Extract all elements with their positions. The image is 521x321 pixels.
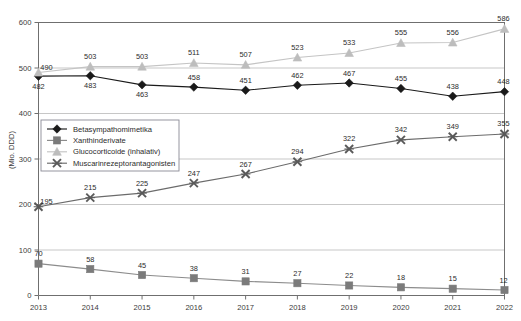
- data-label-3-1: 215: [84, 183, 96, 192]
- data-label-2-8: 556: [447, 28, 459, 37]
- y-tick-label-600: 600: [19, 18, 32, 27]
- data-label-1-5: 27: [293, 269, 301, 278]
- marker-square: [53, 137, 60, 144]
- marker-square: [190, 275, 197, 282]
- legend-label-1: Xanthinderivate: [73, 136, 126, 145]
- marker-square: [449, 285, 456, 292]
- marker-square: [397, 284, 404, 291]
- legend-label-0: Betasympathomimetika: [73, 125, 153, 134]
- data-label-0-8: 438: [447, 82, 459, 91]
- data-label-0-5: 462: [291, 71, 303, 80]
- x-tick-label-2018: 2018: [289, 303, 306, 312]
- y-tick-label-500: 500: [19, 64, 32, 73]
- y-tick-label-200: 200: [19, 200, 32, 209]
- x-tick-label-2017: 2017: [237, 303, 254, 312]
- marker-square: [35, 260, 42, 267]
- data-label-3-2: 225: [136, 179, 148, 188]
- x-tick-label-2021: 2021: [444, 303, 461, 312]
- data-label-3-3: 247: [188, 169, 200, 178]
- legend-item-1[interactable]: Xanthinderivate: [47, 136, 126, 145]
- data-label-3-5: 294: [291, 147, 303, 156]
- data-label-0-4: 451: [239, 76, 251, 85]
- y-tick-label-400: 400: [19, 109, 32, 118]
- data-label-1-0: 70: [34, 249, 42, 258]
- data-label-0-7: 455: [395, 74, 407, 83]
- marker-square: [138, 271, 145, 278]
- chart-canvas: 0100200300400500600 20132014201520162017…: [0, 0, 521, 321]
- line-chart: 0100200300400500600 20132014201520162017…: [0, 0, 521, 321]
- x-tick-label-2014: 2014: [82, 303, 99, 312]
- legend-label-2: Glucocorticoide (inhalativ): [73, 147, 161, 156]
- data-label-2-1: 503: [84, 52, 96, 61]
- data-label-0-9: 448: [497, 77, 509, 86]
- data-label-2-5: 523: [291, 43, 303, 52]
- data-label-2-2: 503: [136, 52, 148, 61]
- data-label-2-0: 490: [40, 63, 52, 72]
- x-tick-label-2020: 2020: [392, 303, 409, 312]
- marker-square: [501, 286, 508, 293]
- data-label-3-0: 195: [40, 197, 52, 206]
- marker-square: [87, 266, 94, 273]
- data-label-0-0: 482: [32, 82, 44, 91]
- marker-square: [346, 282, 353, 289]
- data-label-3-8: 349: [447, 122, 459, 131]
- data-label-3-9: 355: [497, 119, 509, 128]
- data-label-0-3: 458: [188, 73, 200, 82]
- data-label-1-4: 31: [241, 267, 249, 276]
- marker-square: [242, 278, 249, 285]
- data-label-2-6: 533: [343, 38, 355, 47]
- data-label-3-6: 322: [343, 134, 355, 143]
- y-axis-title: (Mio. DDD): [7, 131, 16, 169]
- data-label-1-6: 22: [345, 271, 353, 280]
- data-label-2-7: 555: [395, 28, 407, 37]
- x-tick-label-2019: 2019: [341, 303, 358, 312]
- data-label-0-6: 467: [343, 69, 355, 78]
- y-tick-label-300: 300: [19, 155, 32, 164]
- x-tick-label-2013: 2013: [30, 303, 47, 312]
- data-label-1-9: 12: [499, 276, 507, 285]
- legend-label-3: Muscarinrezeptorantagonisten: [73, 159, 175, 168]
- data-label-0-2: 463: [136, 90, 148, 99]
- marker-square: [294, 280, 301, 287]
- data-label-0-1: 483: [84, 81, 96, 90]
- data-label-1-1: 58: [86, 255, 94, 264]
- data-label-1-7: 18: [397, 273, 405, 282]
- y-tick-label-0: 0: [27, 291, 31, 300]
- data-label-1-2: 45: [138, 261, 146, 270]
- chart-legend[interactable]: BetasympathomimetikaXanthinderivateGluco…: [41, 120, 179, 171]
- data-label-2-9: 586: [497, 14, 509, 23]
- data-label-1-3: 38: [190, 264, 198, 273]
- x-tick-label-2015: 2015: [134, 303, 151, 312]
- x-tick-label-2022: 2022: [496, 303, 513, 312]
- data-label-3-4: 267: [239, 160, 251, 169]
- data-label-3-7: 342: [395, 125, 407, 134]
- x-tick-label-2016: 2016: [185, 303, 202, 312]
- y-tick-label-100: 100: [19, 246, 32, 255]
- data-label-1-8: 15: [449, 274, 457, 283]
- data-label-2-3: 511: [188, 48, 200, 57]
- data-label-2-4: 507: [239, 50, 251, 59]
